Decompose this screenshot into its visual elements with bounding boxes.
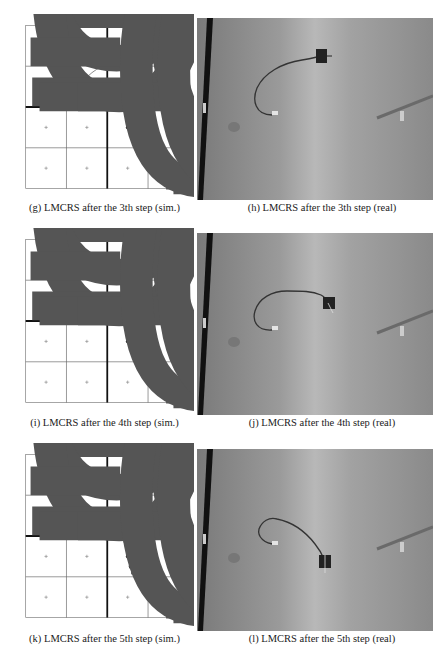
sim-plot-k: 10.50 -0.5-1 -1-0.50 0.51 <box>14 443 194 629</box>
caption-i: (i) LMCRS after the 4th step (sim.) <box>12 417 197 428</box>
photo-l-svg <box>197 449 433 631</box>
photo-h <box>197 18 433 200</box>
caption-h: (h) LMCRS after the 3th step (real) <box>222 202 422 213</box>
caption-g: (g) LMCRS after the 3th step (sim.) <box>12 202 197 213</box>
caption-j: (j) LMCRS after the 4th step (real) <box>222 417 422 428</box>
caption-k: (k) LMCRS after the 5th step (sim.) <box>12 633 197 644</box>
photo-l <box>197 449 433 631</box>
sim-plot-i-svg: 10.50 -0.5-1 -1-0.50 0.51 <box>14 228 194 414</box>
sim-plot-i: 10.50 -0.5-1 -1-0.50 0.51 <box>14 228 194 414</box>
svg-text:1: 1 <box>186 443 194 629</box>
photo-j-svg <box>197 233 433 415</box>
figure-row-2: 10.50 -0.5-1 -1-0.50 0.51 <box>0 215 445 430</box>
svg-text:1: 1 <box>186 14 194 200</box>
photo-h-svg <box>197 18 433 200</box>
figure-row-1: 10.50 -0.5-1 -1-0.50 0.51 <box>0 0 445 215</box>
sim-plot-g: 10.50 -0.5-1 -1-0.50 0.51 <box>14 14 194 200</box>
figure-row-3: 10.50 -0.5-1 -1-0.50 0.51 <box>0 430 445 653</box>
svg-text:1: 1 <box>186 228 194 414</box>
photo-j <box>197 233 433 415</box>
sim-plot-g-svg: 10.50 -0.5-1 -1-0.50 0.51 <box>14 14 194 200</box>
robot <box>323 297 335 309</box>
sim-plot-k-svg: 10.50 -0.5-1 -1-0.50 0.51 <box>14 443 194 629</box>
caption-l: (l) LMCRS after the 5th step (real) <box>222 633 422 644</box>
